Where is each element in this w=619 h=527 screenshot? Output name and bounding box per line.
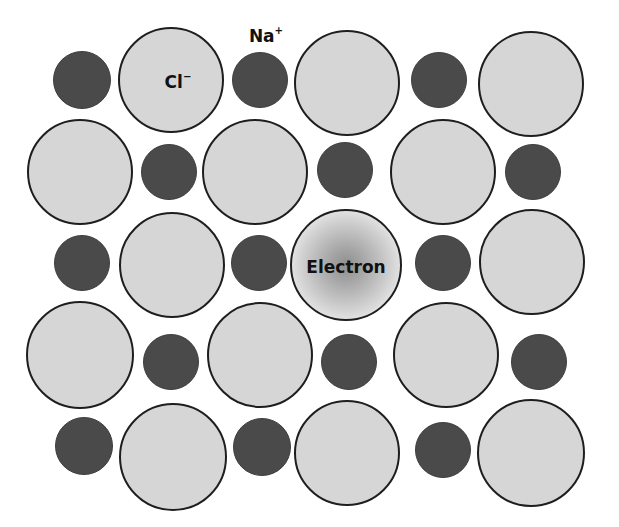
na-ion [53,51,111,109]
chloride-charge: − [183,71,192,82]
cl-ion [26,301,134,409]
na-ion [233,418,291,476]
cl-ion [479,209,585,315]
na-ion [231,235,287,291]
cl-ion [119,212,225,318]
na-ion [321,334,377,390]
chloride-label: Cl− [165,72,192,92]
electron-label: Electron [306,257,385,277]
cl-ion [294,400,400,506]
na-ion [143,334,199,390]
sodium-charge: + [275,25,284,36]
sodium-symbol: Na [249,26,275,46]
cl-ion [477,399,585,507]
na-ion [54,235,110,291]
na-ion [505,144,561,200]
cl-ion [202,119,308,225]
cl-ion [294,30,400,136]
cl-ion [27,119,133,225]
na-ion [415,235,471,291]
cl-ion [119,403,227,511]
na-ion [411,52,467,108]
cl-ion [478,31,584,137]
na-ion [141,144,197,200]
cl-ion [393,302,499,408]
sodium-label: Na+ [249,26,283,46]
cl-ion [207,302,313,408]
chloride-symbol: Cl [165,72,183,92]
na-ion [511,334,567,390]
cl-ion [390,119,496,225]
na-ion [317,142,373,198]
na-ion [55,417,113,475]
na-ion [232,52,288,108]
na-ion [415,422,471,478]
